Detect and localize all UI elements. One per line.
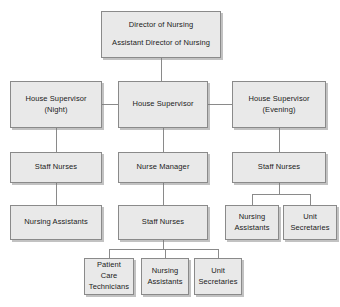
node-line: Assistants bbox=[234, 223, 269, 234]
node-line: Nursing bbox=[152, 266, 179, 277]
node-line: House Supervisor bbox=[132, 99, 193, 110]
node-house-supervisor[interactable]: House Supervisor bbox=[118, 81, 208, 128]
node-line: Secretaries bbox=[290, 223, 329, 234]
node-nursing-assistants-bottom[interactable]: Nursing Assistants bbox=[141, 258, 189, 295]
node-line: Patient bbox=[97, 260, 121, 271]
node-nursing-assistants-right[interactable]: Nursing Assistants bbox=[225, 205, 279, 240]
node-unit-secretaries-bottom[interactable]: Unit Secretaries bbox=[194, 258, 242, 295]
node-staff-nurses-right[interactable]: Staff Nurses bbox=[232, 152, 326, 183]
node-line: Assistant Director of Nursing bbox=[112, 38, 210, 49]
node-line: Nursing Assistants bbox=[24, 217, 88, 228]
org-chart: Director of Nursing Assistant Director o… bbox=[0, 0, 340, 307]
node-staff-nurses-center[interactable]: Staff Nurses bbox=[118, 205, 208, 240]
node-line: Unit bbox=[303, 212, 317, 223]
node-line: House Supervisor bbox=[25, 94, 86, 105]
node-line: Assistants bbox=[147, 277, 182, 288]
node-line: House Supervisor bbox=[248, 94, 309, 105]
node-line: Nursing bbox=[239, 212, 266, 223]
node-line: Director of Nursing bbox=[129, 20, 193, 31]
node-line: Secretaries bbox=[198, 277, 237, 288]
node-house-supervisor-evening[interactable]: House Supervisor (Evening) bbox=[232, 81, 326, 128]
node-nursing-assistants-left[interactable]: Nursing Assistants bbox=[10, 205, 102, 240]
node-patient-care-technicians[interactable]: Patient Care Technicians bbox=[84, 258, 134, 295]
node-line: Staff Nurses bbox=[142, 217, 184, 228]
node-line: Nurse Manager bbox=[137, 162, 190, 173]
node-line: Unit bbox=[211, 266, 225, 277]
node-nurse-manager[interactable]: Nurse Manager bbox=[118, 152, 208, 183]
node-line: (Night) bbox=[44, 105, 67, 116]
node-line: Technicians bbox=[89, 282, 129, 293]
node-line: (Evening) bbox=[263, 105, 296, 116]
node-line: Staff Nurses bbox=[35, 162, 77, 173]
node-staff-nurses-left[interactable]: Staff Nurses bbox=[10, 152, 102, 183]
node-line: Care bbox=[101, 271, 118, 282]
node-unit-secretaries-right[interactable]: Unit Secretaries bbox=[283, 205, 337, 240]
node-director-of-nursing[interactable]: Director of Nursing Assistant Director o… bbox=[101, 11, 221, 58]
node-house-supervisor-night[interactable]: House Supervisor (Night) bbox=[10, 81, 102, 128]
node-line: Staff Nurses bbox=[258, 162, 300, 173]
